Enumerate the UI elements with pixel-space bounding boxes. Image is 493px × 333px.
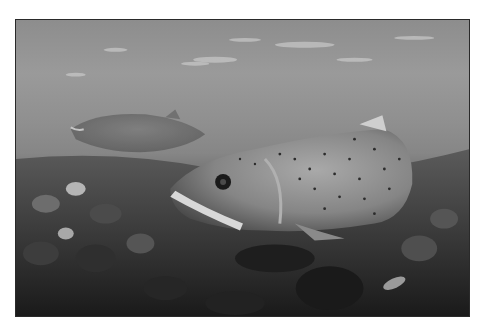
- foreground-trout: [170, 115, 412, 240]
- photo: Underwater photo of spotted trout over r…: [15, 19, 470, 317]
- water-surface: [66, 36, 434, 77]
- photo-scene: [16, 20, 469, 316]
- background-trout: [71, 109, 205, 152]
